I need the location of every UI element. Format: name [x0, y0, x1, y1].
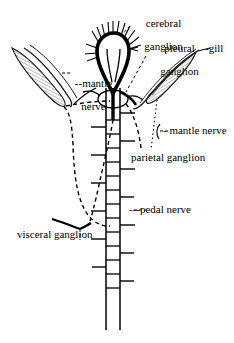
label-mantle-nerve-right: - mantle nerve — [163, 125, 227, 137]
label-visceral-ganglion: visceral ganglion — [17, 229, 92, 241]
label-cerebral-ganglion-line1: cerebral — [146, 17, 181, 29]
label-pedal-nerve: ---pedal nerve — [129, 204, 191, 216]
figure-canvas: cerebral ganglion pleural ganglion -gill… — [0, 0, 234, 343]
label-mantle-nerve-left-line1: --mantle — [75, 77, 112, 89]
label-mantle-nerve-left-line2: nerve — [81, 100, 105, 112]
label-pleural-ganglion: pleural ganglion — [136, 31, 212, 89]
label-pleural-ganglion-line1: pleural — [164, 42, 195, 54]
label-parietal-ganglion: parietal ganglion — [131, 152, 205, 164]
label-pleural-ganglion-line2: ganglion — [160, 65, 199, 77]
label-mantle-nerve-left: --mantle nerve — [60, 66, 116, 124]
label-gill: -gill — [205, 43, 223, 55]
